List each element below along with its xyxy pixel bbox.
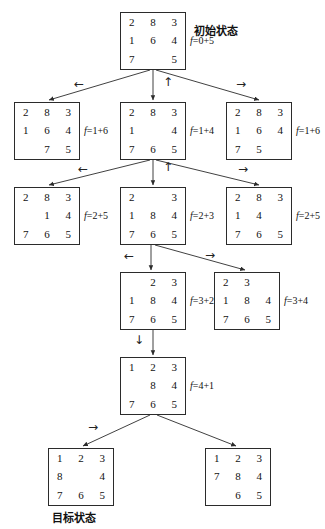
tile-5: 5 xyxy=(249,490,270,501)
f-value-n7: f=3+2 xyxy=(190,295,214,306)
tile-1: 1 xyxy=(49,453,70,464)
state-node-n6: 28314765 xyxy=(226,187,292,245)
tile-7: 7 xyxy=(49,490,70,501)
tile-8: 8 xyxy=(36,192,57,203)
tile-3: 3 xyxy=(236,277,257,288)
move-left-icon: ← xyxy=(74,78,84,90)
tile-2: 2 xyxy=(227,107,248,118)
tile-2: 2 xyxy=(215,277,236,288)
tile-6: 6 xyxy=(248,125,269,136)
tile-2: 2 xyxy=(15,107,36,118)
tile-5: 5 xyxy=(270,229,291,240)
tile-8: 8 xyxy=(49,471,70,482)
state-node-n7: 23184765 xyxy=(120,272,186,330)
tile-5: 5 xyxy=(58,229,79,240)
f-value-n8: f=3+4 xyxy=(284,295,308,306)
move-right-icon: → xyxy=(205,249,215,261)
tile-4: 4 xyxy=(258,295,279,306)
tile-4: 4 xyxy=(58,125,79,136)
tile-2: 2 xyxy=(121,107,142,118)
tile-5: 5 xyxy=(164,314,185,325)
tile-8: 8 xyxy=(142,17,163,28)
move-right-icon: → xyxy=(238,163,248,175)
tile-1: 1 xyxy=(206,453,227,464)
tile-4: 4 xyxy=(249,471,270,482)
tile-5: 5 xyxy=(164,144,185,155)
tile-3: 3 xyxy=(164,107,185,118)
tile-2: 2 xyxy=(227,192,248,203)
tile-6: 6 xyxy=(142,35,163,46)
tile-1: 1 xyxy=(227,210,248,221)
tile-8: 8 xyxy=(36,107,57,118)
tile-5: 5 xyxy=(164,229,185,240)
move-left-icon: ← xyxy=(78,163,88,175)
tile-8: 8 xyxy=(248,192,269,203)
initial-state-label: 初始状态 xyxy=(194,22,238,38)
tile-2: 2 xyxy=(142,277,163,288)
tile-8: 8 xyxy=(227,471,248,482)
tile-7: 7 xyxy=(227,229,248,240)
tile-6: 6 xyxy=(236,314,257,325)
tile-1: 1 xyxy=(227,125,248,136)
state-node-n11: 12378465 xyxy=(205,448,271,506)
tile-6: 6 xyxy=(227,490,248,501)
tile-5: 5 xyxy=(92,490,113,501)
tile-3: 3 xyxy=(58,107,79,118)
tile-2: 2 xyxy=(142,362,163,373)
tile-3: 3 xyxy=(249,453,270,464)
tile-7: 7 xyxy=(206,471,227,482)
goal-state-label: 目标状态 xyxy=(52,509,96,525)
tile-6: 6 xyxy=(248,229,269,240)
tile-4: 4 xyxy=(164,295,185,306)
tile-2: 2 xyxy=(121,17,142,28)
move-up-icon: ↑ xyxy=(163,161,173,173)
tile-2: 2 xyxy=(227,453,248,464)
f-value-n2: f=1+4 xyxy=(190,125,214,136)
tile-7: 7 xyxy=(121,144,142,155)
tile-8: 8 xyxy=(248,107,269,118)
tile-7: 7 xyxy=(215,314,236,325)
tile-1: 1 xyxy=(15,125,36,136)
edge-group-level2-3 xyxy=(151,245,245,270)
tile-1: 1 xyxy=(121,35,142,46)
tile-7: 7 xyxy=(121,399,142,410)
tile-4: 4 xyxy=(164,125,185,136)
tile-4: 4 xyxy=(164,210,185,221)
tile-4: 4 xyxy=(164,380,185,391)
state-node-n0: 28316475 xyxy=(120,12,186,70)
tile-7: 7 xyxy=(121,314,142,325)
tile-2: 2 xyxy=(15,192,36,203)
tile-3: 3 xyxy=(58,192,79,203)
tile-5: 5 xyxy=(258,314,279,325)
tile-1: 1 xyxy=(121,125,142,136)
tile-1: 1 xyxy=(36,210,57,221)
tile-2: 2 xyxy=(121,192,142,203)
state-node-n1: 28316475 xyxy=(14,102,80,160)
move-right-icon: → xyxy=(236,78,246,90)
tile-2: 2 xyxy=(70,453,91,464)
state-node-n10: 12384765 xyxy=(48,448,114,506)
tile-8: 8 xyxy=(236,295,257,306)
puzzle-search-tree-diagram: 28316475f=0+528316475f=1+628314765f=1+42… xyxy=(0,0,325,529)
move-down-icon: ↓ xyxy=(134,334,144,346)
tile-6: 6 xyxy=(142,229,163,240)
tile-5: 5 xyxy=(58,144,79,155)
tile-8: 8 xyxy=(142,380,163,391)
tile-7: 7 xyxy=(15,229,36,240)
edge-group-level4-5 xyxy=(83,415,236,446)
f-value-n5: f=2+3 xyxy=(190,210,214,221)
tile-8: 8 xyxy=(142,295,163,306)
f-value-n6: f=2+5 xyxy=(296,210,320,221)
state-node-n3: 28316475 xyxy=(226,102,292,160)
move-up-icon: ↑ xyxy=(163,76,173,88)
f-value-n3: f=1+6 xyxy=(296,125,320,136)
tile-6: 6 xyxy=(142,399,163,410)
move-right-icon: → xyxy=(88,421,98,433)
state-node-n2: 28314765 xyxy=(120,102,186,160)
tile-5: 5 xyxy=(248,144,269,155)
tile-8: 8 xyxy=(142,107,163,118)
tile-8: 8 xyxy=(142,210,163,221)
tile-3: 3 xyxy=(270,192,291,203)
tile-4: 4 xyxy=(164,35,185,46)
tile-5: 5 xyxy=(164,399,185,410)
